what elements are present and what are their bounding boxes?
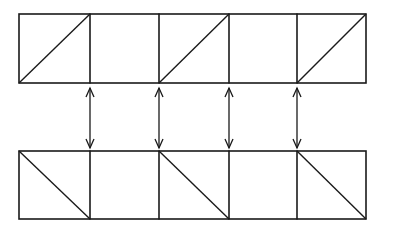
correspondence-arrows xyxy=(86,88,301,148)
cell-diagonal-down xyxy=(159,151,229,219)
strip-diagram xyxy=(0,0,395,226)
cell-diagonal-down xyxy=(297,151,366,219)
cell-diagonal-down xyxy=(19,151,90,219)
cell-diagonal-up xyxy=(297,14,366,83)
double-arrow-icon xyxy=(225,88,233,148)
bottom-strip xyxy=(19,151,366,219)
top-strip xyxy=(19,14,366,83)
bottom-strip-outline xyxy=(19,151,366,219)
double-arrow-icon xyxy=(86,88,94,148)
double-arrow-icon xyxy=(293,88,301,148)
cell-diagonal-up xyxy=(19,14,90,83)
double-arrow-icon xyxy=(155,88,163,148)
top-strip-outline xyxy=(19,14,366,83)
cell-diagonal-up xyxy=(159,14,229,83)
